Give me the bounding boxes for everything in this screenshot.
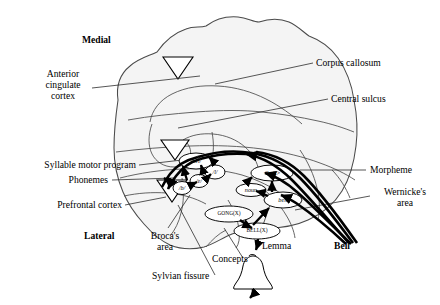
node-phoneme-b: /b/: [173, 184, 191, 191]
label-morpheme: Morpheme: [370, 164, 412, 175]
label-sylvian-fissure: Sylvian fissure: [152, 270, 209, 281]
label-brocas-area: Broca's area: [134, 230, 196, 252]
label-central-sulcus: Central sulcus: [331, 93, 386, 104]
node-noun: noun: [238, 186, 264, 193]
label-bell-output: Bell: [334, 240, 350, 251]
node-syllable-bell: /bɛl/: [179, 157, 213, 164]
label-lemma: Lemma: [262, 240, 291, 251]
label-prefrontal-cortex: Prefrontal cortex: [8, 199, 122, 210]
node-phoneme-l: /l/: [205, 168, 225, 175]
label-phonemes: Phonemes: [26, 174, 108, 185]
label-syllable-motor-program: Syllable motor program: [8, 159, 136, 170]
label-lateral: Lateral: [84, 230, 114, 241]
brain-language-diagram: /bɛl/ /l/ /ɛ/ /b/ <bell> noun bell GONG(…: [0, 0, 440, 305]
node-concept-bell: BELL(X): [236, 227, 278, 234]
label-corpus-callosum: Corpus callosum: [316, 57, 381, 68]
arrow-bellx-to-bell-object: [256, 239, 258, 250]
node-phoneme-e: /ɛ/: [190, 177, 208, 184]
node-concept-gong: GONG(X): [207, 210, 251, 217]
label-anterior-cingulate-cortex: Anterior cingulate cortex: [32, 68, 94, 101]
label-concepts: Concepts: [212, 253, 248, 264]
node-morpheme-bell: <bell>: [254, 169, 290, 176]
label-wernickes-area: Wernicke's area: [372, 186, 438, 208]
node-lemma-bell: bell: [270, 196, 296, 203]
label-medial: Medial: [82, 34, 111, 45]
